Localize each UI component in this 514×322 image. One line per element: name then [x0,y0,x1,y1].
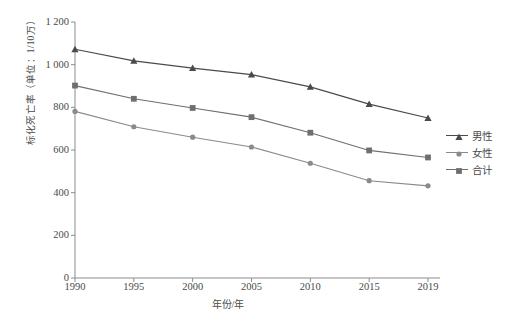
x-tick-label: 1995 [104,282,164,293]
x-tick-label: 2005 [222,282,282,293]
series-line [75,49,428,118]
square-marker [190,105,196,111]
line-chart: 标化死亡率（单位：1/10万） 02004006008001 0001 200 … [0,0,514,322]
y-tick-label: 400 [23,187,69,198]
triangle-marker [71,46,78,52]
x-axis-title: 年份/年 [0,296,514,311]
square-marker [425,155,431,161]
legend-item[interactable]: 合计 [446,161,492,178]
y-tick-label: 1 000 [23,59,69,70]
legend-item[interactable]: 女性 [446,144,492,161]
x-tick-label: 2019 [398,282,458,293]
plot-area [0,0,514,322]
square-marker [366,148,372,154]
x-tick-label: 1990 [45,282,105,293]
x-tick-label: 2010 [280,282,340,293]
chart-legend: 男性女性合计 [446,127,492,178]
circle-marker [72,109,77,114]
legend-item[interactable]: 男性 [446,127,492,144]
legend-label: 合计 [472,162,492,177]
circle-marker [367,178,372,183]
x-tick-label: 2015 [339,282,399,293]
square-marker [454,166,464,176]
series-女性 [72,109,430,189]
circle-marker [249,144,254,149]
y-tick-label: 200 [23,230,69,241]
legend-label: 男性 [472,128,492,143]
square-marker [307,130,313,136]
circle-marker [308,161,313,166]
circle-marker [454,149,464,159]
square-marker [131,96,137,102]
square-marker [72,83,78,89]
legend-swatch [446,148,468,158]
legend-swatch [446,131,468,141]
y-tick-label: 600 [23,145,69,156]
x-tick-label: 2000 [163,282,223,293]
y-tick-label: 800 [23,102,69,113]
square-marker [249,114,255,120]
legend-label: 女性 [472,145,492,160]
triangle-marker [454,132,464,142]
y-tick-label: 1 200 [23,17,69,28]
square-marker [456,168,462,174]
circle-marker [190,135,195,140]
circle-marker [456,151,461,156]
triangle-marker [455,133,462,139]
circle-marker [425,183,430,188]
x-axis-title-text: 年份/年 [212,296,245,311]
legend-swatch [446,165,468,175]
circle-marker [131,124,136,129]
series-男性 [71,46,431,121]
